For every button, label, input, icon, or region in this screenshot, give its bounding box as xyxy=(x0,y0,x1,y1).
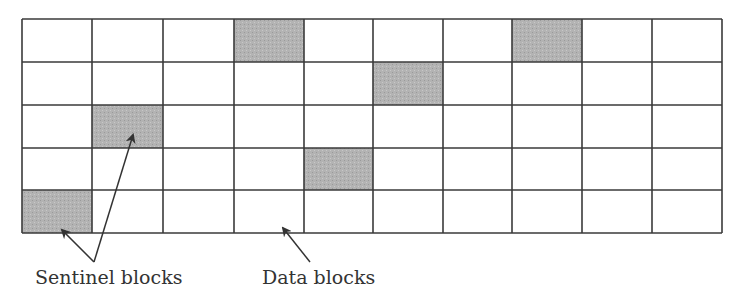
data-block xyxy=(163,148,234,190)
data-block xyxy=(443,19,512,62)
data-block xyxy=(582,105,652,148)
sentinel-block xyxy=(304,148,373,190)
data-block xyxy=(92,19,163,62)
data-block xyxy=(512,148,582,190)
data-block xyxy=(512,105,582,148)
data-block xyxy=(373,105,443,148)
data-block xyxy=(582,148,652,190)
sentinel-block xyxy=(373,62,443,105)
data-block xyxy=(443,62,512,105)
data-blocks-label: Data blocks xyxy=(262,266,375,288)
data-block xyxy=(304,190,373,233)
data-block xyxy=(163,19,234,62)
data-block xyxy=(512,190,582,233)
data-block xyxy=(582,62,652,105)
data-block xyxy=(582,19,652,62)
data-block xyxy=(234,148,304,190)
data-block xyxy=(373,190,443,233)
data-block xyxy=(22,148,92,190)
data-block xyxy=(443,190,512,233)
sentinel-block xyxy=(234,19,304,62)
sentinel-arrow-1-icon xyxy=(62,230,94,262)
data-block xyxy=(22,62,92,105)
sentinel-blocks-label: Sentinel blocks xyxy=(35,266,182,288)
data-block xyxy=(443,148,512,190)
data-block xyxy=(163,62,234,105)
data-block xyxy=(304,19,373,62)
data-block xyxy=(652,190,722,233)
data-block xyxy=(373,148,443,190)
data-block xyxy=(163,190,234,233)
sentinel-block xyxy=(92,105,163,148)
data-block xyxy=(443,105,512,148)
data-block xyxy=(163,105,234,148)
data-block xyxy=(652,19,722,62)
data-block xyxy=(234,62,304,105)
data-block xyxy=(22,105,92,148)
data-block xyxy=(652,148,722,190)
sentinel-block xyxy=(512,19,582,62)
data-block xyxy=(652,62,722,105)
data-block xyxy=(304,105,373,148)
data-block xyxy=(92,190,163,233)
data-block xyxy=(234,190,304,233)
data-block xyxy=(92,62,163,105)
data-block xyxy=(22,19,92,62)
sentinel-block xyxy=(22,190,92,233)
data-block xyxy=(373,19,443,62)
data-block xyxy=(304,62,373,105)
data-block xyxy=(652,105,722,148)
data-block xyxy=(512,62,582,105)
data-block xyxy=(234,105,304,148)
data-block xyxy=(582,190,652,233)
sentinel-data-diagram: Sentinel blocks Data blocks xyxy=(0,0,735,307)
block-grid xyxy=(0,0,735,307)
